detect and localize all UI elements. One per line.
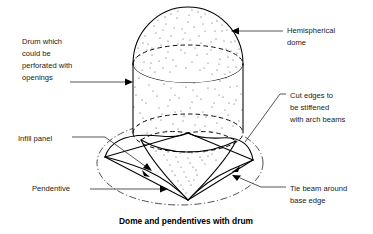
- label-hemispherical-dome-group: Hemispherical dome: [231, 26, 335, 47]
- label-drum-line-2: could be: [22, 49, 51, 58]
- label-drum-line-3: perforated with: [22, 61, 72, 70]
- label-drum-line-4: openings: [22, 73, 53, 82]
- label-drum-line-1: Drum which: [22, 37, 62, 46]
- dome-pendentive-diagram: Drum which could be perforated with open…: [0, 0, 373, 234]
- label-tie-beam-group: Tie beam around base edge: [232, 175, 347, 205]
- tie-beam-front-right: [188, 160, 253, 200]
- label-pendentive-text: Pendentive: [32, 184, 70, 193]
- label-dome-line-2: dome: [287, 38, 306, 47]
- label-infill-panel-text: Infill panel: [18, 134, 53, 143]
- label-cut-edges-line-2: be stiffened: [290, 103, 329, 112]
- hemispherical-dome: [133, 7, 243, 83]
- label-tie-beam-leader: [240, 178, 286, 187]
- label-cut-edges-leader: [245, 94, 286, 142]
- label-drum-group: Drum which could be perforated with open…: [22, 37, 133, 85]
- label-pendentive-group: Pendentive: [32, 184, 168, 193]
- figure-caption: Dome and pendentives with drum: [119, 216, 253, 226]
- label-dome-line-1: Hemispherical: [287, 26, 335, 35]
- label-cut-edges-line-1: Cut edges to: [290, 91, 333, 100]
- label-cut-edges-group: Cut edges to be stiffened with arch beam…: [245, 91, 345, 142]
- label-drum-arrowhead: [125, 79, 133, 86]
- label-pendentive-arrowhead: [160, 186, 168, 193]
- label-tie-beam-line-2: base edge: [290, 196, 325, 205]
- figure-container: Drum which could be perforated with open…: [0, 0, 373, 234]
- tie-beam-front-left: [105, 157, 188, 200]
- label-tie-beam-arrowhead: [232, 175, 241, 181]
- label-tie-beam-line-1: Tie beam around: [290, 184, 347, 193]
- label-infill-panel-group: Infill panel: [18, 134, 152, 171]
- label-cut-edges-line-3: with arch beams: [289, 115, 345, 124]
